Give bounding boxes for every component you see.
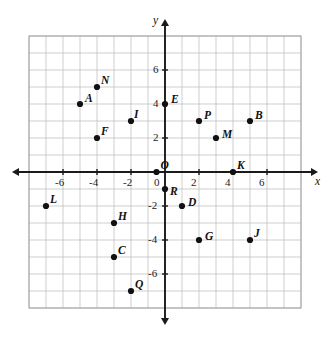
y-tick-label: -6 [148, 268, 157, 279]
plotted-point-f [94, 135, 100, 141]
point-label-p: P [204, 110, 211, 122]
point-label-i: I [134, 109, 138, 121]
x-tick-label: 6 [259, 177, 265, 188]
y-tick-label: -2 [148, 200, 157, 211]
point-label-q: Q [135, 279, 143, 291]
point-label-l: L [50, 194, 57, 206]
x-tick-label: -6 [55, 177, 64, 188]
point-label-h: H [118, 211, 127, 223]
plotted-point-r [162, 186, 168, 192]
x-tick-label: 2 [191, 177, 197, 188]
point-label-f: F [101, 126, 109, 138]
point-label-m: M [222, 129, 232, 141]
plotted-point-j [247, 237, 253, 243]
plotted-point-c [111, 254, 117, 260]
point-label-o: O [161, 160, 169, 172]
y-tick-label: 2 [153, 132, 159, 143]
point-label-r: R [170, 186, 178, 198]
y-axis-label: y [153, 15, 158, 27]
plotted-point-h [111, 220, 117, 226]
x-tick-label: -2 [123, 177, 132, 188]
y-tick-label: 6 [153, 64, 159, 75]
coordinate-plane-figure: -6-4-20246642-2-4-6 NAEIPBFMOKRLDHGJCQ x… [0, 0, 327, 339]
plotted-point-l [43, 203, 49, 209]
plotted-point-p [196, 118, 202, 124]
plotted-point-k [230, 169, 236, 175]
point-label-a: A [85, 93, 93, 105]
plotted-point-a [77, 101, 83, 107]
plotted-point-d [179, 203, 185, 209]
y-tick-label: -4 [148, 234, 157, 245]
x-tick-label: 0 [154, 177, 160, 188]
plotted-point-b [247, 118, 253, 124]
plotted-point-m [213, 135, 219, 141]
plotted-point-g [196, 237, 202, 243]
plotted-point-o [153, 169, 159, 175]
point-label-k: K [237, 160, 245, 172]
point-label-b: B [255, 110, 263, 122]
point-label-e: E [171, 94, 179, 106]
plotted-point-n [94, 84, 100, 90]
point-label-c: C [118, 245, 126, 257]
point-label-n: N [101, 75, 109, 87]
plotted-point-q [128, 288, 134, 294]
y-tick-label: 4 [153, 98, 159, 109]
x-tick-label: -4 [89, 177, 98, 188]
x-tick-label: 4 [225, 177, 231, 188]
point-label-g: G [205, 231, 213, 243]
point-label-d: D [188, 197, 196, 209]
point-label-j: J [254, 228, 260, 240]
plotted-point-e [162, 101, 168, 107]
x-axis-label: x [315, 176, 320, 188]
